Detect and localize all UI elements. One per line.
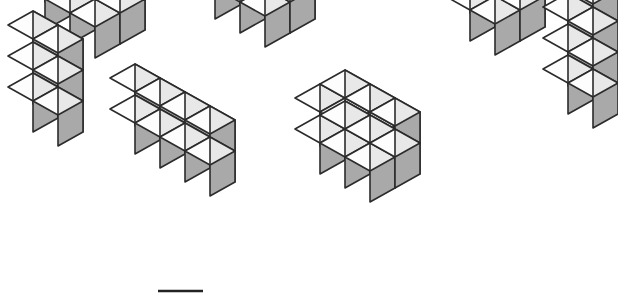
tower-2x1x4 (543, 0, 618, 128)
tower-2x2x3 (445, 0, 545, 55)
wall-4x1x2 (110, 64, 235, 196)
cube-face-right (215, 0, 240, 19)
isometric-scene (0, 0, 618, 299)
block-3x2x2 (190, 0, 315, 47)
block-3x2x2-lower (295, 70, 420, 202)
cube-figures-canvas (0, 0, 618, 299)
cube (190, 0, 240, 19)
cube-face-right (290, 0, 315, 33)
